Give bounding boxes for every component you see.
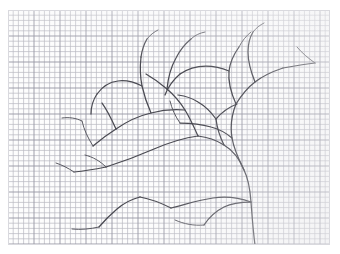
screenshot-canvas xyxy=(0,0,340,254)
drawing-surface xyxy=(8,10,330,245)
graph-paper-sheet xyxy=(8,10,330,245)
paper-edge-left xyxy=(8,10,9,245)
paper-edge-top xyxy=(8,10,330,11)
paper-edge-bottom xyxy=(8,244,330,245)
paper-edge-right xyxy=(329,10,330,245)
